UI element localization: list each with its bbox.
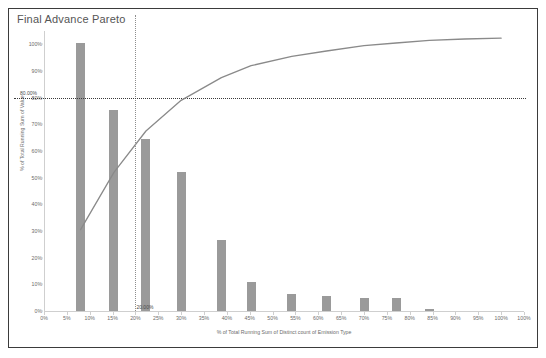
y-tick-mark bbox=[40, 44, 43, 45]
x-tick-mark bbox=[295, 312, 296, 315]
x-tick-mark bbox=[250, 312, 251, 315]
x-tick-mark bbox=[318, 312, 319, 315]
x-tick-label: 60% bbox=[313, 315, 323, 321]
x-tick-mark bbox=[341, 312, 342, 315]
y-tick-mark bbox=[40, 71, 43, 72]
x-tick-mark bbox=[478, 312, 479, 315]
x-tick-mark bbox=[387, 312, 388, 315]
x-tick-mark bbox=[44, 312, 45, 315]
x-tick-mark bbox=[410, 312, 411, 315]
x-tick-mark bbox=[455, 312, 456, 315]
cumulative-line-layer bbox=[44, 31, 524, 311]
y-tick-mark bbox=[40, 231, 43, 232]
horizontal-reference-label: 80.00% bbox=[20, 90, 37, 96]
y-axis-ticks: 0%10%20%30%40%50%60%70%80%90%100% bbox=[9, 31, 42, 311]
x-tick-mark bbox=[113, 312, 114, 315]
x-tick-label: 80% bbox=[405, 315, 415, 321]
plot-wrapper: 0%10%20%30%40%50%60%70%80%90%100% 0%5%10… bbox=[9, 9, 539, 349]
x-tick-label: 100% bbox=[495, 315, 508, 321]
x-tick-mark bbox=[501, 312, 502, 315]
x-tick-label: 15% bbox=[107, 315, 117, 321]
y-tick-mark bbox=[40, 311, 43, 312]
y-tick-mark bbox=[40, 257, 43, 258]
visualization-frame: Final Advance Pareto 0%10%20%30%40%50%60… bbox=[8, 8, 538, 348]
x-tick-label: 85% bbox=[427, 315, 437, 321]
y-tick-mark bbox=[40, 204, 43, 205]
x-axis-ticks: 0%5%10%15%20%25%30%35%40%45%50%55%60%65%… bbox=[44, 312, 524, 328]
x-tick-label: 45% bbox=[245, 315, 255, 321]
x-tick-label: 40% bbox=[222, 315, 232, 321]
x-tick-mark bbox=[273, 312, 274, 315]
x-tick-mark bbox=[433, 312, 434, 315]
cumulative-line bbox=[81, 38, 502, 229]
y-tick-mark bbox=[40, 177, 43, 178]
x-tick-label: 20% bbox=[130, 315, 140, 321]
x-tick-mark bbox=[158, 312, 159, 315]
x-tick-mark bbox=[227, 312, 228, 315]
x-tick-mark bbox=[181, 312, 182, 315]
x-tick-mark bbox=[204, 312, 205, 315]
x-axis-title: % of Total Running Sum of Distinct count… bbox=[44, 329, 524, 335]
y-axis-title: % of Total Running Sum of Value bbox=[19, 95, 25, 171]
x-tick-label: 10% bbox=[85, 315, 95, 321]
plot-area: 80.00% 20.00% bbox=[44, 31, 524, 311]
x-tick-label: 25% bbox=[153, 315, 163, 321]
x-tick-label: 50% bbox=[267, 315, 277, 321]
x-tick-label: 5% bbox=[63, 315, 71, 321]
x-tick-label: 30% bbox=[176, 315, 186, 321]
x-tick-label: 0% bbox=[40, 315, 48, 321]
x-tick-label: 70% bbox=[359, 315, 369, 321]
x-tick-mark bbox=[90, 312, 91, 315]
y-tick-mark bbox=[40, 284, 43, 285]
x-tick-label: 100% bbox=[517, 315, 530, 321]
x-tick-label: 55% bbox=[290, 315, 300, 321]
y-tick-mark bbox=[40, 124, 43, 125]
x-tick-mark bbox=[524, 312, 525, 315]
x-tick-mark bbox=[135, 312, 136, 315]
chart-screenshot: Final Advance Pareto 0%10%20%30%40%50%60… bbox=[0, 0, 546, 358]
x-tick-label: 35% bbox=[199, 315, 209, 321]
x-tick-label: 90% bbox=[450, 315, 460, 321]
x-tick-mark bbox=[364, 312, 365, 315]
x-tick-label: 65% bbox=[336, 315, 346, 321]
x-tick-label: 75% bbox=[382, 315, 392, 321]
x-tick-label: 95% bbox=[473, 315, 483, 321]
y-tick-mark bbox=[40, 151, 43, 152]
x-tick-mark bbox=[67, 312, 68, 315]
